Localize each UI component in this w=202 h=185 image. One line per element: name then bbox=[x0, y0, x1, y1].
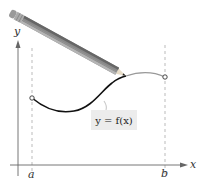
open-endpoint-a bbox=[30, 96, 34, 100]
x-axis-label: x bbox=[190, 159, 196, 170]
x-axis-arrow-icon bbox=[180, 163, 188, 168]
label-pointer-line bbox=[104, 101, 106, 110]
function-curve-undrawn bbox=[126, 73, 165, 77]
y-axis-arrow-icon bbox=[16, 40, 21, 48]
point-a-label: a bbox=[28, 169, 35, 180]
function-label: y = f(x) bbox=[91, 110, 137, 130]
open-endpoint-b bbox=[163, 75, 167, 79]
y-axis-label: y bbox=[14, 26, 20, 37]
diagram-canvas bbox=[0, 0, 202, 185]
point-b-label: b bbox=[161, 168, 168, 179]
pencil-icon bbox=[8, 9, 128, 80]
function-curve-drawn bbox=[32, 76, 126, 112]
